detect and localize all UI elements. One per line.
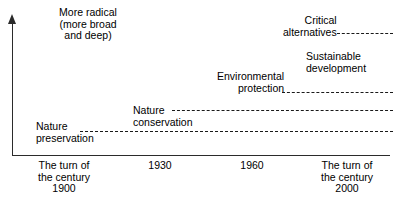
trend-line-critical-alternatives xyxy=(337,33,393,34)
trend-label-environmental-protection: Environmental protection xyxy=(217,71,284,94)
x-axis-line xyxy=(12,155,390,156)
trend-line-environmental-protection xyxy=(282,92,393,93)
trend-line-nature-preservation xyxy=(80,131,393,132)
x-axis-tick-1960: 1960 xyxy=(222,160,282,172)
y-axis-line xyxy=(12,22,13,156)
x-axis-tick-1930: 1930 xyxy=(130,160,190,172)
trend-label-critical-alternatives: Critical alternatives xyxy=(283,15,337,38)
y-axis-caption: More radical (more broad and deep) xyxy=(28,7,148,42)
trend-label-sustainable-development: Sustainable development xyxy=(306,51,366,74)
trend-label-nature-conservation: Nature conservation xyxy=(133,105,193,128)
x-axis-tick-1900: The turn of the century 1900 xyxy=(14,160,114,195)
x-axis-tick-2000: The turn of the century 2000 xyxy=(300,160,394,195)
environmentalism-timeline-diagram: More radical (more broad and deep) Criti… xyxy=(0,0,397,207)
trend-label-nature-preservation: Nature preservation xyxy=(36,121,94,144)
trend-line-nature-conservation xyxy=(172,110,393,111)
